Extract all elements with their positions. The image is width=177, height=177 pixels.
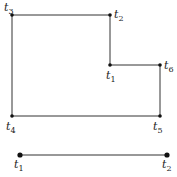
polygon-vertices: t3t2t1t6t5t4 [4, 1, 174, 135]
polygon-vertex-t6 [158, 63, 162, 67]
segment-vertex-t1 [17, 152, 22, 157]
segment-label-t1: t1 [14, 158, 24, 173]
segment-label-t2: t2 [162, 158, 172, 173]
polygon-vertex-t4 [10, 114, 14, 118]
polygon-outline [12, 15, 160, 116]
polygon-label-t6: t6 [164, 59, 174, 74]
polygon-label-t5: t5 [153, 120, 163, 135]
polygon-vertex-t1 [108, 63, 112, 67]
diagram-canvas: t3t2t1t6t5t4 t1t2 [0, 0, 177, 177]
polygon-vertex-t5 [158, 114, 162, 118]
polygon-vertex-t2 [108, 13, 112, 17]
segment-vertex-t2 [164, 152, 169, 157]
polygon-label-t3: t3 [4, 1, 14, 16]
polygon-label-t1: t1 [106, 69, 116, 84]
polygon-label-t4: t4 [6, 120, 16, 135]
polygon-label-t2: t2 [114, 8, 124, 23]
